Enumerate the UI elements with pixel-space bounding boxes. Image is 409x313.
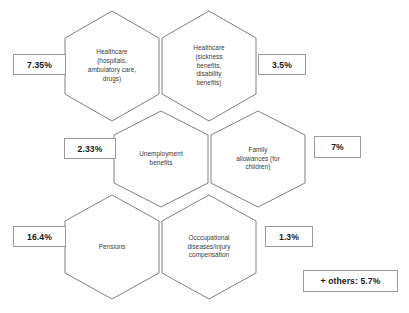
value-text-healthcare-hospitals: 7.35%: [27, 60, 52, 70]
hexagon-label-occupational-diseases: Occcupational diseases/injury compensati…: [174, 234, 243, 260]
value-box-healthcare-hospitals: 7.35%: [13, 54, 66, 75]
value-box-occupational-diseases: 1.3%: [265, 226, 313, 247]
hexagon-label-pensions: Pensions: [77, 243, 146, 252]
value-box-healthcare-sickness: 3.5%: [258, 54, 306, 75]
hexagon-label-family-allowances: Family allowances (for children): [223, 146, 292, 172]
value-box-others: + others: 5.7%: [303, 270, 398, 292]
value-box-pensions: 16.4%: [13, 226, 66, 247]
hexagon-label-healthcare-sickness: Healthcare (sickness benefits, disabilit…: [174, 44, 243, 88]
value-box-family-allowances: 7%: [314, 136, 361, 158]
value-text-healthcare-sickness: 3.5%: [272, 60, 292, 70]
hexagon-healthcare-hospitals[interactable]: Healthcare (hospitals, ambulatory care, …: [64, 10, 160, 122]
value-text-unemployment-benefits: 2.33%: [78, 144, 103, 154]
value-text-others: + others: 5.7%: [321, 276, 381, 286]
value-box-unemployment-benefits: 2.33%: [64, 138, 116, 159]
hexagon-pensions[interactable]: Pensions: [64, 194, 160, 300]
hexagon-label-unemployment-benefits: Unemployment benefits: [126, 150, 195, 168]
value-text-family-allowances: 7%: [331, 142, 344, 152]
hexagon-healthcare-sickness[interactable]: Healthcare (sickness benefits, disabilit…: [161, 10, 257, 122]
value-text-occupational-diseases: 1.3%: [279, 232, 299, 242]
hexagon-occupational-diseases[interactable]: Occcupational diseases/injury compensati…: [161, 194, 257, 300]
diagram-canvas: Healthcare (hospitals, ambulatory care, …: [0, 0, 409, 313]
value-text-pensions: 16.4%: [27, 232, 52, 242]
hexagon-label-healthcare-hospitals: Healthcare (hospitals, ambulatory care, …: [77, 48, 146, 83]
